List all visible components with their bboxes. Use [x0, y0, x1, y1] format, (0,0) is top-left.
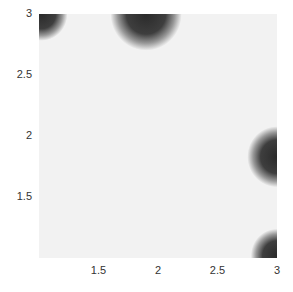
y-tick-label: 2 [2, 129, 32, 141]
heatmap-image [39, 14, 277, 258]
heatmap-plot-area [39, 14, 277, 258]
x-tick-label: 2 [143, 264, 173, 276]
y-tick-label: 1.5 [2, 190, 32, 202]
y-tick-label: 2.5 [2, 68, 32, 80]
x-tick-label: 2.5 [203, 264, 233, 276]
x-tick-label: 3 [262, 264, 292, 276]
y-tick-label: 3 [2, 7, 32, 19]
x-tick-label: 1.5 [84, 264, 114, 276]
